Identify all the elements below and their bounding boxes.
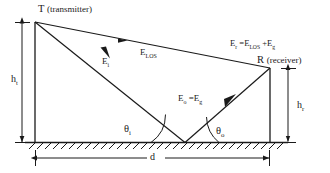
ray-incident (35, 22, 185, 143)
ei-sub: i (108, 62, 110, 68)
ray-label-reflected: Eo =Eg (178, 94, 202, 106)
ray-label-line-of-sight: ELOS (140, 48, 157, 60)
ground-surface (25, 143, 288, 150)
receiver-label: R (receiver) (257, 55, 302, 66)
receiver-symbol: R (257, 54, 264, 65)
ht-sub: t (16, 79, 18, 86)
ray-reflected-direction-arrow (224, 94, 236, 107)
dimension-height-receiver (281, 69, 296, 143)
elos-sub: LOS (146, 53, 157, 59)
d-main: d (150, 151, 155, 162)
angle-arc-incidence (151, 115, 166, 143)
dimension-label-height-receiver: hr (297, 100, 304, 113)
theta-i-sub: i (129, 129, 131, 136)
eq-t1-sub: LOS (249, 44, 260, 50)
eg-sub: g (199, 99, 202, 105)
dimension-label-height-transmitter: ht (11, 74, 18, 87)
diagram-svg (0, 0, 330, 173)
dimension-label-separation: d (150, 152, 155, 162)
total-field-equation: Er =ELOS +Eg (230, 39, 275, 50)
receiver-paren: (receiver) (267, 55, 302, 65)
figure-canvas: T (transmitter) R (receiver) ELOS Ei Eo … (0, 0, 330, 173)
ray-label-incident: Ei (102, 57, 109, 69)
ground-hatching (29, 143, 283, 149)
eq-t2-sub: g (272, 44, 275, 50)
hr-sub: r (302, 105, 304, 112)
angle-label-reflection: θo (216, 126, 225, 139)
theta-o-sub: o (221, 131, 224, 138)
transmitter-paren: (transmitter) (47, 4, 92, 14)
angle-label-incidence: θi (124, 124, 131, 137)
transmitter-label: T (transmitter) (38, 4, 92, 15)
